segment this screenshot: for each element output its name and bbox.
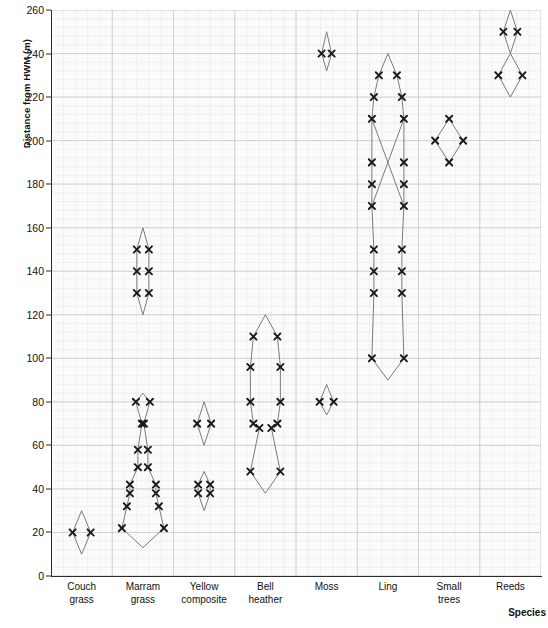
y-tick-label: 160	[0, 222, 44, 234]
kite-diagram: Distance from HWM (m) 020406080100120140…	[0, 0, 548, 628]
x-category-label-line: trees	[403, 594, 495, 607]
kite-bell-heather	[247, 315, 283, 494]
y-tick-label: 140	[0, 265, 44, 277]
y-tick-label: 20	[0, 526, 44, 538]
kite-outline	[250, 315, 280, 494]
kite-ling	[369, 54, 407, 381]
y-tick-mark	[46, 358, 51, 359]
x-category-label-line: Reeds	[464, 581, 548, 594]
kite-yellow-composite	[194, 402, 214, 511]
y-tick-mark	[46, 140, 51, 141]
x-axis-title: Species	[508, 607, 546, 618]
y-tick-mark	[46, 53, 51, 54]
y-tick-label: 200	[0, 135, 44, 147]
y-tick-mark	[46, 271, 51, 272]
kite-couch-grass	[70, 511, 94, 555]
y-tick-mark	[46, 576, 51, 577]
kite-outline	[137, 228, 149, 315]
y-tick-mark	[46, 488, 51, 489]
y-tick-label: 40	[0, 483, 44, 495]
kite-outline	[73, 511, 91, 555]
y-tick-label: 240	[0, 48, 44, 60]
y-tick-mark	[46, 97, 51, 98]
y-tick-mark	[46, 10, 51, 11]
y-tick-label: 220	[0, 91, 44, 103]
kite-outline	[498, 54, 522, 98]
kite-outline	[435, 119, 463, 163]
y-tick-label: 60	[0, 439, 44, 451]
kite-moss	[317, 32, 337, 415]
y-tick-label: 120	[0, 309, 44, 321]
y-tick-label: 180	[0, 178, 44, 190]
x-axis-labels: CouchgrassMarramgrassYellowcompositeBell…	[51, 581, 542, 623]
y-tick-label: 100	[0, 352, 44, 364]
kite-outline	[197, 402, 211, 446]
kite-small-trees	[432, 116, 466, 166]
plot-area	[51, 10, 541, 576]
kite-series-layer	[51, 10, 541, 576]
y-tick-label: 80	[0, 396, 44, 408]
y-tick-mark	[46, 532, 51, 533]
x-category-label-line: heather	[219, 594, 311, 607]
y-tick-label: 260	[0, 4, 44, 16]
kite-marram-grass	[119, 228, 167, 548]
kite-outline	[503, 10, 517, 54]
kite-outline	[122, 393, 164, 548]
x-axis-line	[51, 576, 542, 577]
x-category-label: Reeds	[464, 581, 548, 594]
y-tick-mark	[46, 445, 51, 446]
kite-reeds	[495, 10, 525, 97]
y-tick-mark	[46, 184, 51, 185]
y-tick-mark	[46, 401, 51, 402]
y-axis-line	[51, 10, 52, 577]
kite-outline	[372, 54, 404, 381]
y-tick-mark	[46, 314, 51, 315]
y-tick-mark	[46, 227, 51, 228]
